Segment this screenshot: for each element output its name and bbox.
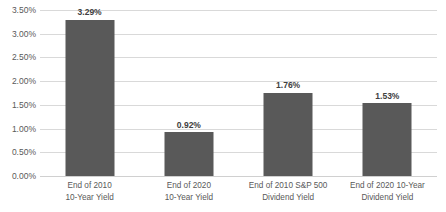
x-axis-tick-label-line: End of 2020 xyxy=(139,180,238,192)
bar-group: 3.29% xyxy=(40,0,139,176)
x-axis: End of 201010-Year YieldEnd of 202010-Ye… xyxy=(40,180,437,210)
bar[interactable] xyxy=(164,132,213,176)
y-axis: 0.00%0.50%1.00%1.50%2.00%2.50%3.00%3.50% xyxy=(0,10,36,176)
bar-value-label: 1.53% xyxy=(375,92,399,101)
bar-value-label: 0.92% xyxy=(177,121,201,130)
bar-group: 1.76% xyxy=(239,0,338,176)
bar-chart: 0.00%0.50%1.00%1.50%2.00%2.50%3.00%3.50%… xyxy=(0,0,446,212)
y-axis-tick-label: 2.00% xyxy=(0,77,36,86)
x-axis-tick-label-line: End of 2010 xyxy=(40,180,139,192)
x-axis-tick-label: End of 2020 10-YearDividend Yield xyxy=(338,180,437,203)
x-axis-tick-label: End of 201010-Year Yield xyxy=(40,180,139,203)
bars-layer: 3.29%0.92%1.76%1.53% xyxy=(40,0,437,176)
y-axis-tick-label: 1.00% xyxy=(0,124,36,133)
bar-group: 0.92% xyxy=(139,0,238,176)
bar[interactable] xyxy=(65,20,114,176)
y-axis-tick-label: 3.00% xyxy=(0,29,36,38)
x-axis-tick-label-line: End of 2020 10-Year xyxy=(338,180,437,192)
axis-baseline xyxy=(40,176,437,177)
bar[interactable] xyxy=(363,103,412,176)
y-axis-tick-label: 3.50% xyxy=(0,6,36,15)
bar-group: 1.53% xyxy=(338,0,437,176)
bar[interactable] xyxy=(264,93,313,176)
x-axis-tick-label-line: End of 2010 S&P 500 xyxy=(239,180,338,192)
x-axis-tick-label-line: Dividend Yield xyxy=(239,192,338,204)
x-axis-tick-label: End of 2010 S&P 500Dividend Yield xyxy=(239,180,338,203)
x-axis-tick-label-line: Dividend Yield xyxy=(338,192,437,204)
bar-value-label: 3.29% xyxy=(78,8,102,17)
x-axis-tick-label-line: 10-Year Yield xyxy=(40,192,139,204)
y-axis-tick-label: 0.00% xyxy=(0,172,36,181)
x-axis-tick-label-line: 10-Year Yield xyxy=(139,192,238,204)
y-axis-tick-label: 0.50% xyxy=(0,148,36,157)
y-axis-tick-label: 1.50% xyxy=(0,101,36,110)
bar-value-label: 1.76% xyxy=(276,81,300,90)
x-axis-tick-label: End of 202010-Year Yield xyxy=(139,180,238,203)
y-axis-tick-label: 2.50% xyxy=(0,53,36,62)
